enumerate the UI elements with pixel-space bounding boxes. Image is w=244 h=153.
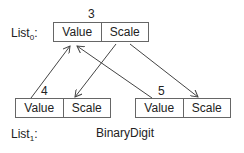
- node-top: Value Scale: [53, 22, 149, 42]
- scale-field: Scale: [183, 99, 231, 117]
- node-index-4: 4: [41, 84, 48, 98]
- list0-label: List0:: [11, 26, 37, 42]
- scale-field: Scale: [63, 99, 111, 117]
- scale-field: Scale: [101, 23, 149, 41]
- value-field: Value: [54, 23, 101, 41]
- node-left: Value Scale: [15, 98, 111, 118]
- value-field: Value: [136, 99, 183, 117]
- node-right: Value Scale: [135, 98, 231, 118]
- value-field: Value: [16, 99, 63, 117]
- node-index-3: 3: [88, 7, 95, 21]
- list1-label: List1:: [11, 127, 37, 143]
- type-label: BinaryDigit: [96, 126, 154, 140]
- node-index-5: 5: [158, 84, 165, 98]
